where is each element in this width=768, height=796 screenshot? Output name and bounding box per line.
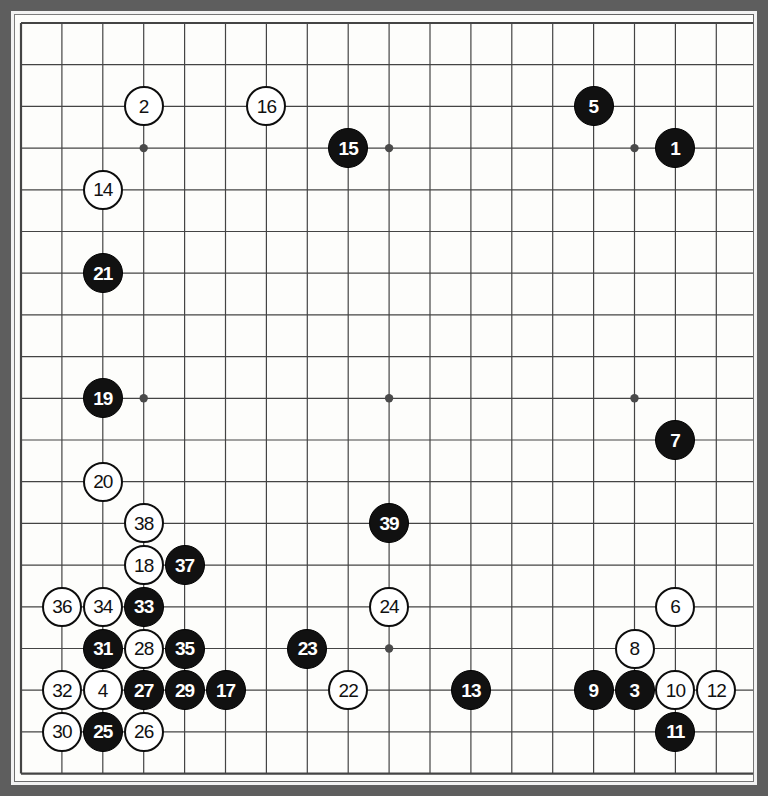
stone-move-31[interactable]: 31 xyxy=(83,629,123,669)
stone-move-25[interactable]: 25 xyxy=(83,712,123,752)
stone-move-number: 23 xyxy=(298,639,317,658)
stone-move-number: 15 xyxy=(339,138,358,157)
stone-move-number: 14 xyxy=(93,180,112,199)
stone-move-number: 32 xyxy=(52,680,71,699)
star-point xyxy=(140,394,148,402)
stone-move-number: 1 xyxy=(670,138,680,157)
stone-move-number: 16 xyxy=(257,96,276,115)
stone-move-number: 7 xyxy=(670,430,680,449)
stone-move-27[interactable]: 27 xyxy=(124,670,164,710)
stone-move-number: 10 xyxy=(666,680,685,699)
stone-move-number: 25 xyxy=(93,722,112,741)
stone-move-20[interactable]: 20 xyxy=(83,462,123,502)
stone-move-number: 38 xyxy=(134,513,153,532)
stone-move-number: 29 xyxy=(175,680,194,699)
stone-move-29[interactable]: 29 xyxy=(165,670,205,710)
stone-move-37[interactable]: 37 xyxy=(165,545,205,585)
stone-move-number: 3 xyxy=(629,680,639,699)
stone-move-number: 17 xyxy=(216,680,235,699)
stone-move-34[interactable]: 34 xyxy=(83,587,123,627)
stone-move-number: 39 xyxy=(380,513,399,532)
stone-move-number: 28 xyxy=(134,639,153,658)
stone-move-number: 19 xyxy=(93,388,112,407)
stone-move-17[interactable]: 17 xyxy=(206,670,246,710)
stone-move-6[interactable]: 6 xyxy=(655,587,695,627)
stone-move-5[interactable]: 5 xyxy=(574,86,614,126)
stone-move-9[interactable]: 9 xyxy=(574,670,614,710)
stone-move-number: 30 xyxy=(52,722,71,741)
stone-move-2[interactable]: 2 xyxy=(124,86,164,126)
stone-move-number: 31 xyxy=(93,639,112,658)
stone-move-number: 33 xyxy=(134,597,153,616)
stone-move-36[interactable]: 36 xyxy=(42,587,82,627)
stone-move-3[interactable]: 3 xyxy=(615,670,655,710)
star-point xyxy=(385,144,393,152)
star-point xyxy=(630,394,638,402)
star-point xyxy=(385,644,393,652)
stone-move-33[interactable]: 33 xyxy=(124,587,164,627)
star-point xyxy=(140,144,148,152)
stone-move-number: 9 xyxy=(589,680,599,699)
star-point xyxy=(385,394,393,402)
stone-move-35[interactable]: 35 xyxy=(165,629,205,669)
stone-move-21[interactable]: 21 xyxy=(83,253,123,293)
star-point xyxy=(630,144,638,152)
stone-move-13[interactable]: 13 xyxy=(451,670,491,710)
stone-move-number: 8 xyxy=(629,639,639,658)
stone-move-number: 22 xyxy=(339,680,358,699)
stone-move-number: 26 xyxy=(134,722,153,741)
stone-move-number: 34 xyxy=(93,597,112,616)
stone-move-number: 24 xyxy=(380,597,399,616)
stone-move-19[interactable]: 19 xyxy=(83,378,123,418)
stone-move-number: 20 xyxy=(93,472,112,491)
stone-move-number: 37 xyxy=(175,555,194,574)
stone-move-number: 6 xyxy=(670,597,680,616)
stone-move-32[interactable]: 32 xyxy=(42,670,82,710)
stone-move-4[interactable]: 4 xyxy=(83,670,123,710)
stone-move-number: 2 xyxy=(139,96,149,115)
stone-move-26[interactable]: 26 xyxy=(124,712,164,752)
stone-move-number: 12 xyxy=(707,680,726,699)
stone-move-number: 27 xyxy=(134,680,153,699)
stone-move-28[interactable]: 28 xyxy=(124,629,164,669)
stone-move-number: 11 xyxy=(666,722,684,741)
stone-move-number: 4 xyxy=(98,680,108,699)
stone-move-number: 18 xyxy=(134,555,153,574)
stone-move-14[interactable]: 14 xyxy=(83,170,123,210)
stone-move-number: 35 xyxy=(175,639,194,658)
stone-move-30[interactable]: 30 xyxy=(42,712,82,752)
stone-move-number: 21 xyxy=(93,263,112,282)
stone-move-number: 5 xyxy=(589,96,599,115)
stone-move-15[interactable]: 15 xyxy=(328,128,368,168)
stone-move-18[interactable]: 18 xyxy=(124,545,164,585)
stone-move-23[interactable]: 23 xyxy=(287,629,327,669)
stone-move-38[interactable]: 38 xyxy=(124,503,164,543)
stone-move-24[interactable]: 24 xyxy=(369,587,409,627)
stone-move-number: 13 xyxy=(461,680,480,699)
go-board-figure: 1234567891011121314151617181920212223242… xyxy=(0,0,768,796)
stone-move-number: 36 xyxy=(52,597,71,616)
stone-move-8[interactable]: 8 xyxy=(615,629,655,669)
go-board-surface[interactable]: 1234567891011121314151617181920212223242… xyxy=(15,15,753,781)
